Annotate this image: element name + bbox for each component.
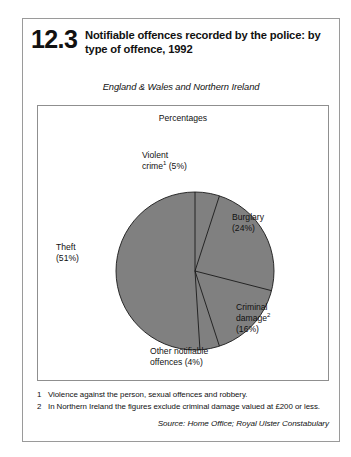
figure-frame: 12.3 Notifiable offences recorded by the…: [22, 18, 340, 442]
slice-label-violent-crime-name: crime: [142, 161, 163, 171]
footnote-item: 2 In Northern Ireland the figures exclud…: [37, 401, 329, 413]
slice-label-burglary: Burglary (24%): [232, 212, 264, 234]
slice-label-other-line2: offences (4%): [150, 357, 208, 368]
footnotes: 1 Violence against the person, sexual of…: [37, 389, 329, 413]
figure-header: 12.3 Notifiable offences recorded by the…: [23, 19, 339, 75]
footnote-item: 1 Violence against the person, sexual of…: [37, 389, 329, 401]
page-title: Notifiable offences recorded by the poli…: [85, 19, 339, 56]
pie-chart-svg: [38, 106, 330, 382]
figure-subtitle: England & Wales and Northern Ireland: [23, 81, 339, 92]
chart-panel: Percentages Violent crime1 (5%) Burglary…: [37, 105, 329, 381]
figure-number: 12.3: [23, 19, 85, 52]
slice-label-criminal-damage-line2: damage2: [236, 313, 270, 324]
slice-label-burglary-line1: Burglary: [232, 212, 264, 223]
slice-label-violent-crime-value: (5%): [166, 161, 187, 171]
slice-label-violent-crime: Violent crime1 (5%): [142, 150, 187, 172]
slice-label-violent-crime-line2: crime1 (5%): [142, 161, 187, 172]
slice-label-criminal-damage-name: damage: [236, 313, 267, 323]
slice-label-criminal-damage-line1: Criminal: [236, 302, 270, 313]
footnote-marker: 2: [37, 401, 48, 413]
slice-label-criminal-damage-line3: (16%): [236, 324, 270, 335]
footnote-ref-2: 2: [267, 312, 270, 318]
slice-label-other-notifiable: Other notifiable offences (4%): [150, 346, 208, 368]
pie-chart: Violent crime1 (5%) Burglary (24%) Crimi…: [38, 106, 328, 380]
source-line: Source: Home Office; Royal Ulster Consta…: [37, 419, 329, 428]
footnote-text: Violence against the person, sexual offe…: [48, 389, 329, 401]
slice-label-burglary-line2: (24%): [232, 223, 264, 234]
slice-label-criminal-damage: Criminal damage2 (16%): [236, 302, 270, 334]
slice-label-theft: Theft (51%): [56, 242, 79, 264]
slice-label-theft-line1: Theft: [56, 242, 79, 253]
slice-label-theft-line2: (51%): [56, 253, 79, 264]
footnote-marker: 1: [37, 389, 48, 401]
slice-label-other-line1: Other notifiable: [150, 346, 208, 357]
footnote-text: In Northern Ireland the figures exclude …: [48, 401, 329, 413]
